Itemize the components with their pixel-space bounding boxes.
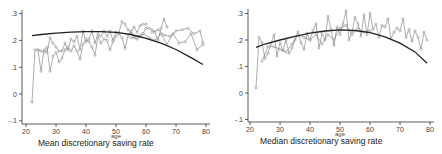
data-point — [375, 23, 377, 25]
chart-title: Mean discretionary saving rate — [38, 138, 154, 148]
data-point — [327, 34, 329, 36]
mean-saving-rate-chart: -.10.1.2.3 20304050607080 age Mean discr… — [9, 10, 210, 148]
data-point — [396, 27, 398, 29]
data-point — [393, 31, 395, 33]
data-point — [106, 39, 108, 41]
data-point — [163, 18, 165, 20]
data-point — [97, 35, 99, 37]
data-point — [315, 34, 317, 36]
data-point — [372, 28, 374, 30]
data-point — [151, 29, 153, 31]
data-point — [169, 35, 171, 37]
data-point — [276, 55, 278, 57]
data-point — [408, 28, 410, 30]
data-point — [187, 27, 189, 29]
data-point — [321, 32, 323, 34]
data-point — [46, 46, 48, 48]
data-point — [85, 38, 87, 40]
data-point — [339, 34, 341, 36]
data-point — [121, 37, 123, 39]
data-point — [136, 31, 138, 33]
data-point — [411, 40, 413, 42]
data-point — [384, 26, 386, 28]
data-point — [163, 34, 165, 36]
x-tick-label: 70 — [396, 126, 404, 133]
x-tick-label: 80 — [202, 128, 210, 135]
data-point — [348, 39, 350, 41]
data-point — [351, 31, 353, 33]
y-tick-label: .1 — [11, 64, 17, 71]
data-point — [109, 49, 111, 51]
data-point — [43, 51, 45, 53]
x-tick-label: 40 — [306, 126, 314, 133]
data-point — [157, 39, 159, 41]
data-point — [148, 27, 150, 29]
data-point — [145, 23, 147, 25]
data-point — [300, 42, 302, 44]
data-point — [291, 43, 293, 45]
y-tick-label: -.1 — [235, 116, 243, 123]
data-point — [357, 23, 359, 25]
data-point — [303, 36, 305, 38]
data-point — [178, 42, 180, 44]
data-point — [82, 43, 84, 45]
y-ticks: -.10.1.2.3 — [9, 10, 22, 124]
y-tick-label: .2 — [237, 37, 243, 44]
data-point — [264, 57, 266, 59]
data-point — [103, 38, 105, 40]
series-layer — [31, 18, 204, 103]
data-point — [279, 48, 281, 50]
chart-title: Median discretionary saving rate — [260, 136, 383, 146]
saving-rate-charts: -.10.1.2.3 20304050607080 age Mean discr… — [0, 0, 442, 154]
data-point — [127, 35, 129, 37]
median-saving-rate-chart: -.10.1.2.3 20304050607080 age Median dis… — [235, 9, 434, 146]
data-point — [61, 50, 63, 52]
data-point — [199, 30, 201, 32]
data-point — [279, 42, 281, 44]
data-point — [88, 38, 90, 40]
y-tick-label: 0 — [13, 91, 17, 98]
x-tick-label: 30 — [52, 128, 60, 135]
data-point — [31, 101, 33, 103]
data-point — [37, 49, 39, 51]
data-point — [261, 42, 263, 44]
data-point — [151, 31, 153, 33]
y-tick-label: 0 — [239, 90, 243, 97]
x-tick-label: 60 — [366, 126, 374, 133]
data-point — [79, 49, 81, 51]
series-line-cohort-c — [131, 34, 203, 50]
data-point — [127, 29, 129, 31]
data-point — [52, 42, 54, 44]
fit-curve — [32, 32, 203, 65]
data-point — [130, 30, 132, 32]
data-point — [142, 23, 144, 25]
data-point — [336, 26, 338, 28]
data-point — [309, 39, 311, 41]
data-point — [273, 34, 275, 36]
data-point — [360, 35, 362, 37]
y-tick-label: .2 — [11, 37, 17, 44]
data-point — [354, 16, 356, 18]
data-point — [414, 30, 416, 32]
data-point — [34, 49, 36, 51]
x-tick-label: 20 — [246, 126, 254, 133]
data-point — [312, 30, 314, 32]
data-point — [70, 38, 72, 40]
data-point — [94, 54, 96, 56]
data-point — [58, 61, 60, 63]
data-point — [426, 39, 428, 41]
data-point — [52, 55, 54, 57]
x-tick-label: 20 — [22, 128, 30, 135]
data-point — [61, 57, 63, 59]
x-tick-label: 60 — [142, 128, 150, 135]
data-point — [73, 45, 75, 47]
data-point — [190, 33, 192, 35]
data-point — [363, 14, 365, 16]
data-point — [285, 51, 287, 53]
data-point — [315, 23, 317, 25]
y-ticks: -.10.1.2.3 — [235, 10, 248, 123]
data-point — [387, 18, 389, 20]
data-point — [70, 50, 72, 52]
data-point — [49, 70, 51, 72]
y-tick-label: .3 — [237, 10, 243, 17]
